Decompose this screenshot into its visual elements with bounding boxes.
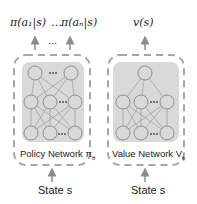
policy-input-state: State s: [38, 184, 72, 196]
policy-network-label: Policy Network πθ: [20, 148, 95, 161]
policy-output-first: π(a₁|s): [10, 16, 46, 29]
diagram-canvas: [0, 0, 197, 204]
input-arrows: [52, 172, 145, 182]
value-output: v(s): [133, 16, 153, 29]
arrow-ellipsis: …: [48, 36, 57, 46]
value-input-state: State s: [131, 184, 165, 196]
value-network-label: Value Network Vϕ: [112, 148, 185, 161]
policy-output-last: π(aₙ|s): [61, 16, 97, 29]
